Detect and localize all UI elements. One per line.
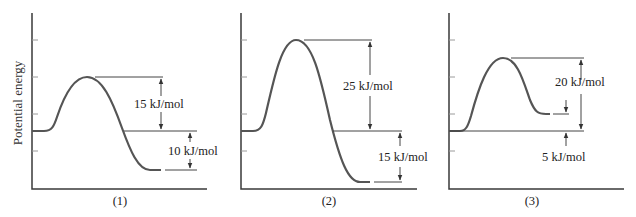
panel-2-ticks [241, 40, 247, 151]
panel-3-energy-curve [449, 58, 550, 131]
energy-diagram-figure: Potential energy 15 kJ/mol 10 kJ/mol (1) [0, 0, 636, 217]
panel-3-activation-label: 20 kJ/mol [555, 75, 605, 89]
panel-1-energy-curve [32, 77, 161, 170]
panel-3-ticks [449, 40, 455, 151]
panel-1: 15 kJ/mol 10 kJ/mol (1) [32, 13, 218, 208]
panel-2: 25 kJ/mol 15 kJ/mol (2) [241, 13, 428, 208]
panel-2-activation-label: 25 kJ/mol [343, 79, 393, 93]
panel-1-activation-label: 15 kJ/mol [134, 97, 184, 111]
panel-2-delta-label: 15 kJ/mol [378, 150, 428, 164]
panel-3-delta-label: 5 kJ/mol [542, 150, 586, 164]
panel-2-energy-curve [241, 40, 370, 182]
y-axis-label: Potential energy [10, 60, 25, 145]
panel-1-label: (1) [113, 194, 128, 208]
panel-3: 20 kJ/mol 5 kJ/mol (3) [449, 13, 624, 208]
panel-1-delta-label: 10 kJ/mol [168, 144, 218, 158]
panel-2-label: (2) [322, 194, 337, 208]
panel-3-label: (3) [525, 194, 540, 208]
panel-1-ticks [32, 40, 38, 151]
